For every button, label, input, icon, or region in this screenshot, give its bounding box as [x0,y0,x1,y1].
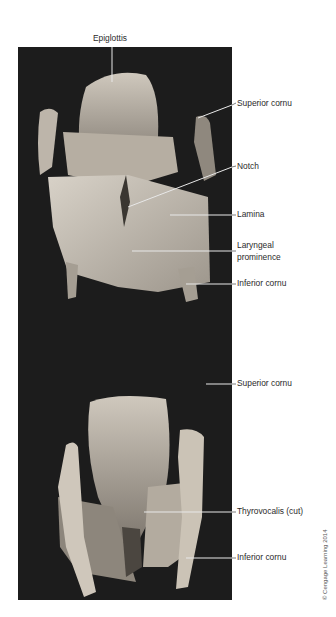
label-prominence: prominence [237,252,281,263]
specimen-photo [18,47,232,600]
label-laryngeal: Laryngeal [237,240,274,251]
right-superior-cornu-shape [194,116,216,181]
copyright-credit: © Cengage Learning 2014 [322,530,328,600]
left-superior-cornu-shape [38,109,58,175]
label-superior-cornu-bottom: Superior cornu [237,378,292,389]
larynx-specimen-illustration [18,47,232,600]
label-notch: Notch [237,161,259,172]
label-inferior-cornu-bottom: Inferior cornu [237,552,286,563]
label-thyrovocalis: Thyrovocalis (cut) [237,506,303,517]
label-lamina: Lamina [237,209,264,220]
left-inferior-cornu-shape [66,262,78,299]
label-superior-cornu-top: Superior cornu [237,98,292,109]
label-epiglottis: Epiglottis [93,33,127,44]
label-inferior-cornu-top: Inferior cornu [237,278,286,289]
